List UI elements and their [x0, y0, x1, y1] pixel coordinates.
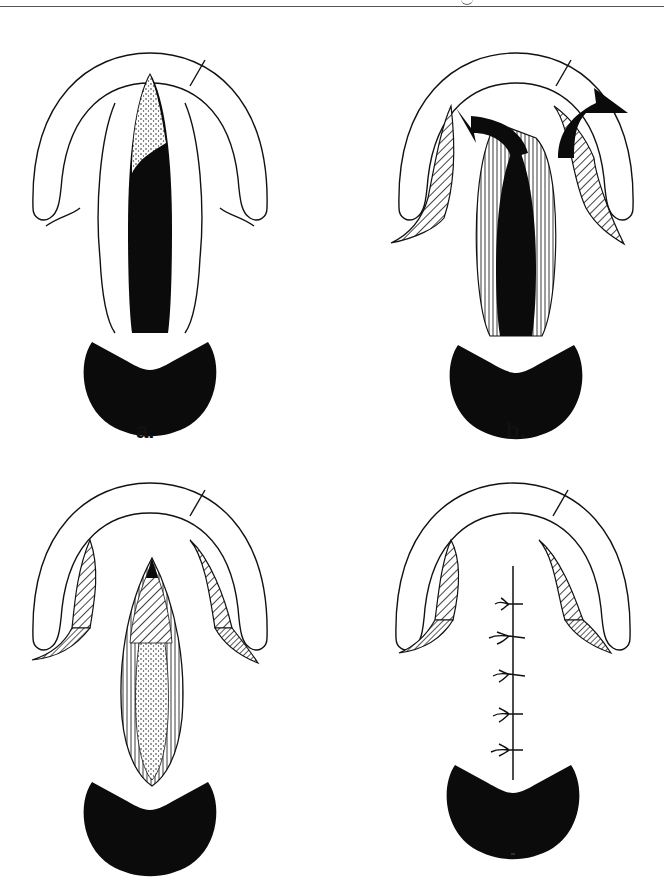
- panel-b: [391, 53, 633, 439]
- surgical-figure: [0, 0, 664, 883]
- panel-c: [32, 483, 267, 876]
- suture-knots: [489, 598, 525, 756]
- panel-a: [33, 53, 267, 436]
- panel-d: [396, 483, 630, 859]
- panel-a-label: a.: [136, 418, 154, 444]
- panel-b-label: b.: [506, 418, 526, 444]
